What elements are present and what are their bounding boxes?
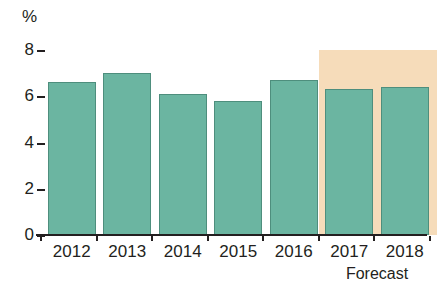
x-axis-tick-mark [429,236,431,241]
bar-2013 [103,73,151,235]
bar-2017 [325,89,373,235]
x-axis-tick-mark [373,236,375,241]
y-axis-tick-label: 2 [25,180,34,197]
y-axis-tick-label: 8 [25,41,34,58]
x-axis-label-2012: 2012 [44,243,100,260]
bar-2016 [270,80,318,235]
x-axis-label-2017: 2017 [322,243,378,260]
x-axis-tick-mark [262,236,264,241]
x-axis-tick-mark [318,236,320,241]
y-axis-tick-label: 6 [25,87,34,104]
x-axis-tick-mark [207,236,209,241]
x-axis-label-2013: 2013 [100,243,156,260]
x-axis-tick-mark [151,236,153,241]
x-axis-label-2018: 2018 [377,243,433,260]
y-axis-tick-label: 0 [25,226,34,243]
y-axis-unit-label: % [22,8,37,25]
forecast-note-label: Forecast [322,266,433,282]
bar-2018 [381,87,429,235]
x-axis-label-2015: 2015 [211,243,267,260]
plot-area [40,50,427,235]
bar-2015 [214,101,262,235]
x-axis-label-2014: 2014 [155,243,211,260]
y-axis-tick-label: 4 [25,134,34,151]
x-axis-label-2016: 2016 [266,243,322,260]
x-axis-tick-mark [40,236,42,241]
bar-2014 [159,94,207,235]
bar-2012 [48,82,96,235]
x-axis-tick-mark [96,236,98,241]
